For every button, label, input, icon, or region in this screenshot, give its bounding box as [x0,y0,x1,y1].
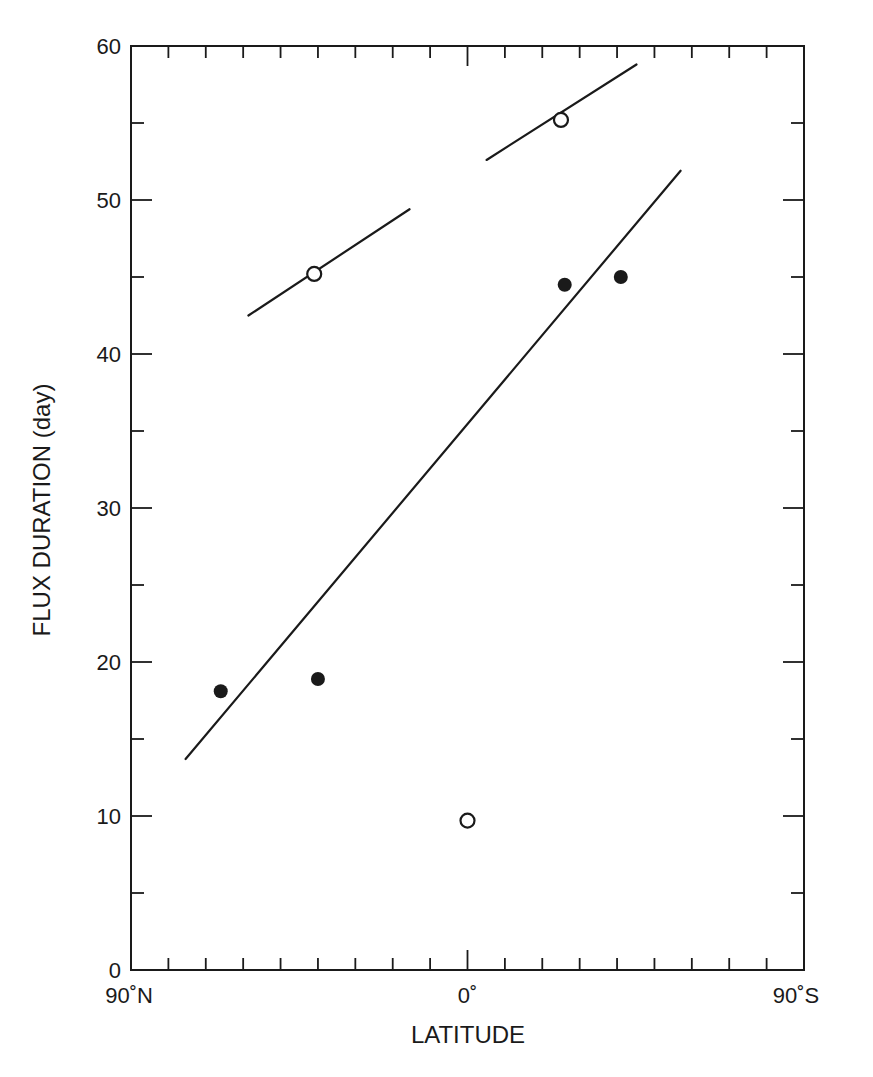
open-circle-marker [461,814,475,828]
x-axis-ticks [168,46,766,970]
plot-border [131,46,804,970]
y-tick-label: 0 [109,958,121,983]
y-tick-label: 40 [97,342,121,367]
filled-circle-marker [311,672,325,686]
fit-lines [186,64,681,759]
x-tick-label: 90˚S [773,983,819,1008]
y-tick-label: 60 [97,34,121,59]
filled-circle-marker [614,270,628,284]
main-fit-line [186,171,681,759]
plot-frame [131,46,804,970]
x-axis-label: LATITUDE [411,1021,525,1048]
y-tick-label: 20 [97,650,121,675]
y-tick-label: 10 [97,804,121,829]
x-axis-tick-labels: 90˚N0˚90˚S [105,983,819,1008]
open-circle-marker [554,113,568,127]
flux-duration-chart: 0102030405060 90˚N0˚90˚S LATITUDE FLUX D… [0,0,873,1077]
open-circle-marker [307,267,321,281]
y-axis-tick-labels: 0102030405060 [97,34,121,983]
y-axis-ticks [131,123,804,893]
filled-circle-marker [214,684,228,698]
y-tick-label: 30 [97,496,121,521]
upper-left-segment [248,209,409,315]
filled-circle-marker [558,278,572,292]
data-points [214,113,628,828]
x-tick-label: 90˚N [105,983,153,1008]
y-tick-label: 50 [97,188,121,213]
y-axis-label: FLUX DURATION (day) [28,384,55,637]
x-tick-label: 0˚ [458,983,478,1008]
